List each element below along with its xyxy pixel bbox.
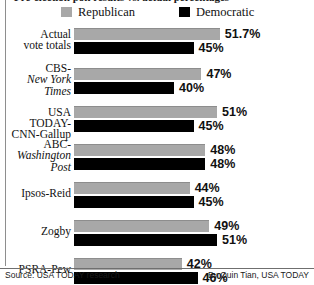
chart-bar-value-democratic: 51% (222, 234, 247, 246)
chart-bar-value-republican: 48% (210, 144, 235, 156)
chart-bar-republican (74, 28, 220, 40)
chart-bar-democratic (74, 196, 194, 208)
chart-row-label-line: New York (6, 74, 71, 85)
footer-credit: By Quin Tian, USA TODAY (208, 271, 309, 280)
chart-row-label-line: Washington (6, 150, 71, 161)
footer-divider (0, 268, 314, 269)
legend-swatch-republican-icon (61, 7, 72, 17)
chart-bar-value-democratic: 45% (199, 196, 224, 208)
chart-bar-republican (74, 220, 209, 232)
chart-row-label: Ipsos-Reid (6, 188, 71, 199)
chart-bar-democratic (74, 120, 194, 132)
chart-bar-republican (74, 182, 190, 194)
chart-bar-democratic (74, 82, 174, 94)
chart-row-label-line: Times (6, 86, 71, 97)
chart-row-label: Zogby (6, 226, 71, 237)
chart-legend: Republican Democratic (6, 6, 309, 23)
footer-source: Source: USA TODAY research (5, 271, 120, 280)
chart-bar-value-republican: 51.7% (225, 28, 260, 40)
legend-item-democratic: Democratic (179, 6, 254, 19)
chart-row-label-line: vote totals (6, 40, 71, 51)
chart-row-label-line: Ipsos-Reid (6, 188, 71, 199)
chart-row-label: USA TODAY-CNN-Gallup (6, 107, 71, 141)
chart-row-label: Actualvote totals (6, 29, 71, 52)
chart-row-label: ABC-WashingtonPost (6, 139, 71, 173)
chart-row-label-line: Zogby (6, 226, 71, 237)
chart-bar-value-republican: 44% (195, 182, 220, 194)
chart-bar-republican (74, 144, 205, 156)
chart-bar-democratic (74, 158, 205, 170)
legend-item-republican: Republican (61, 6, 135, 19)
chart-bar-republican (74, 106, 217, 118)
chart-bar-value-republican: 47% (206, 68, 231, 80)
chart-bar-republican (74, 68, 201, 80)
chart-bar-value-democratic: 40% (179, 82, 204, 94)
chart-bar-democratic (74, 234, 217, 246)
chart-bar-value-republican: 51% (222, 106, 247, 118)
chart-footer: Source: USA TODAY research By Quin Tian,… (0, 271, 314, 283)
legend-swatch-democratic-icon (179, 7, 190, 17)
chart-row-label-line: USA TODAY- (6, 107, 71, 130)
chart-bar-value-democratic: 45% (199, 120, 224, 132)
chart-row-label: CBS-New YorkTimes (6, 63, 71, 97)
chart-plot-area: Actualvote totals51.7%45%CBS-New YorkTim… (6, 24, 309, 262)
chart-bar-value-republican: 49% (214, 220, 239, 232)
chart-row-label-line: Post (6, 162, 71, 173)
chart-bar-value-democratic: 48% (210, 158, 235, 170)
chart-bar-democratic (74, 42, 194, 54)
legend-label-democratic: Democratic (196, 6, 254, 19)
legend-label-republican: Republican (78, 6, 135, 19)
chart-bar-value-democratic: 45% (199, 42, 224, 54)
chart-frame: Republican Democratic Actualvote totals5… (5, 0, 308, 266)
